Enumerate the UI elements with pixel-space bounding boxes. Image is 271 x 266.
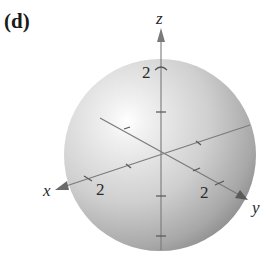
z-arrow-icon	[157, 28, 165, 42]
z-axis-label: z	[155, 9, 163, 28]
y-tick-label: 2	[200, 183, 209, 202]
x-arrow-icon	[55, 181, 69, 190]
sphere-diagram: z 2 x 2 y 2	[0, 0, 271, 266]
z-tick-label: 2	[142, 63, 151, 82]
x-tick-label: 2	[96, 180, 105, 199]
y-axis-label: y	[250, 198, 260, 217]
x-axis-label: x	[42, 181, 51, 200]
